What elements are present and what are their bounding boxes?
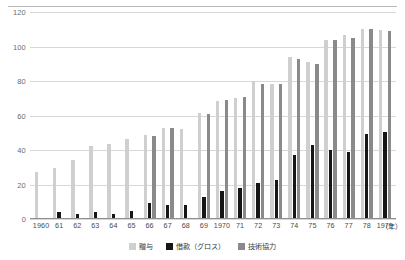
bar-group [50,12,68,219]
bar-group [285,12,303,219]
bar [279,84,282,219]
bar [125,139,128,219]
bar [383,132,386,219]
y-tick-label: 40 [17,146,26,155]
bar [107,144,110,219]
bar [369,29,372,219]
bar [202,197,205,219]
bar [234,98,237,219]
legend-label: 贈与 [139,241,153,251]
bar [252,81,255,219]
bar-group [68,12,86,219]
y-tick-label: 100 [13,42,26,51]
x-tick-label: 65 [122,221,140,230]
x-tick-label: 75 [303,221,321,230]
bar [256,183,259,219]
gridline-0 [30,219,396,220]
x-tick-label: 74 [285,221,303,230]
bar [275,180,278,219]
bar [324,40,327,219]
x-axis-line [30,218,396,219]
bar [293,155,296,219]
bar-chart: 020406080100120 196061626364656667686919… [0,0,405,260]
bar [297,59,300,219]
bar-group [213,12,231,219]
x-tick-label: 72 [249,221,267,230]
plot-area: 020406080100120 [30,12,396,219]
bar [53,168,56,219]
bar [261,84,264,219]
legend-label: 技術協力 [248,241,276,251]
bar [170,128,173,219]
bar [365,134,368,219]
bar-group [358,12,376,219]
bar-group [195,12,213,219]
bar-group [249,12,267,219]
bar-group [322,12,340,219]
x-tick-label: 1960 [32,221,50,230]
bar [238,188,241,219]
bar-group [267,12,285,219]
x-tick-label: 73 [267,221,285,230]
bar [89,146,92,219]
bar [388,31,391,219]
x-tick-label: 63 [86,221,104,230]
bar-group [86,12,104,219]
x-tick-label: 76 [322,221,340,230]
bar-group [141,12,159,219]
bar [347,152,350,219]
bar [35,172,38,219]
bar-group [303,12,321,219]
x-tick-label: 64 [104,221,122,230]
x-tick-label: 71 [231,221,249,230]
bar [152,136,155,219]
legend-swatch-icon [166,243,173,250]
bar [379,30,382,219]
legend-item[interactable]: 技術協力 [238,241,276,251]
bar [306,62,309,219]
bar [184,205,187,219]
bar-group [231,12,249,219]
bar [71,160,74,220]
bar-group [376,12,394,219]
x-tick-label: 68 [177,221,195,230]
y-tick-label: 60 [17,111,26,120]
bar-groups [30,12,396,219]
bar-group [104,12,122,219]
x-tick-label: 62 [68,221,86,230]
bar [243,97,246,219]
bar [225,100,228,219]
x-tick-label: 66 [141,221,159,230]
bar-group [122,12,140,219]
legend-swatch-icon [238,243,245,250]
bar [144,135,147,219]
bar [329,150,332,219]
bar [270,84,273,219]
x-tick-label: 69 [195,221,213,230]
y-tick-label: 120 [13,8,26,17]
legend-item[interactable]: 贈与 [129,241,153,251]
bar [351,38,354,219]
bar [311,145,314,219]
bar [198,113,201,219]
bar [343,35,346,219]
x-axis-unit-label: （年） [381,221,402,231]
bar-group [177,12,195,219]
y-tick-label: 0 [22,215,26,224]
legend-swatch-icon [129,243,136,250]
x-tick-label: 67 [159,221,177,230]
y-tick-label: 80 [17,77,26,86]
top-divider [8,6,397,7]
legend-item[interactable]: 借款（グロス） [166,241,225,251]
bar [180,129,183,219]
bar [288,57,291,219]
bar [315,64,318,219]
bar [166,205,169,219]
bar [220,191,223,219]
y-tick-label: 20 [17,180,26,189]
bar [361,29,364,219]
x-tick-label: 77 [340,221,358,230]
x-tick-label: 61 [50,221,68,230]
bar [333,40,336,219]
bar-group [32,12,50,219]
